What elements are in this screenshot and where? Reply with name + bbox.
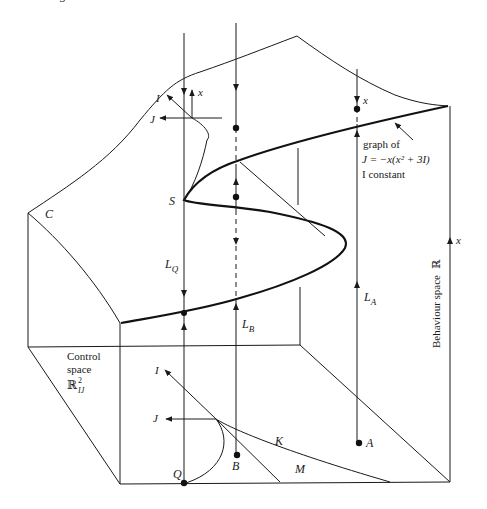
svg-text:J = −x(x² + 3I): J = −x(x² + 3I) bbox=[362, 153, 430, 166]
control-cusp bbox=[165, 370, 390, 483]
label-A-line-x: x bbox=[362, 94, 368, 106]
line-L-Q bbox=[181, 33, 187, 486]
top-fragment-text: 3 bbox=[59, 0, 66, 4]
line-L-B bbox=[233, 23, 240, 458]
control-space-label: Control space ℝ 2 IJ bbox=[67, 350, 101, 395]
label-control-J: J bbox=[153, 412, 159, 424]
svg-text:graph of: graph of bbox=[363, 138, 400, 150]
label-L-A: LA bbox=[363, 290, 377, 307]
box-frame bbox=[28, 148, 450, 484]
svg-text:space: space bbox=[67, 363, 92, 375]
label-behaviour-x: x bbox=[455, 234, 461, 246]
graph-annotation: graph of J = −x(x² + 3I) I constant bbox=[362, 123, 430, 180]
label-inset-x: x bbox=[197, 86, 203, 98]
label-A: A bbox=[365, 436, 374, 450]
svg-text:ℝ: ℝ bbox=[67, 378, 78, 392]
surface-outline bbox=[28, 36, 450, 482]
label-K: K bbox=[274, 434, 284, 448]
svg-text:IJ: IJ bbox=[77, 386, 85, 395]
label-L-B: LB bbox=[241, 317, 255, 334]
svg-text:2: 2 bbox=[78, 376, 82, 385]
label-control-I: I bbox=[154, 364, 160, 376]
label-inset-J: J bbox=[150, 113, 156, 125]
label-M: M bbox=[294, 462, 306, 476]
inset-axes-upper bbox=[160, 90, 222, 200]
svg-text:I constant: I constant bbox=[362, 168, 405, 180]
label-C: C bbox=[45, 207, 54, 221]
label-S: S bbox=[169, 194, 175, 208]
label-B: B bbox=[232, 459, 240, 473]
label-Q: Q bbox=[173, 467, 182, 481]
label-inset-I: I bbox=[155, 92, 161, 104]
svg-text:Behaviour spaceℝ: Behaviour spaceℝ bbox=[430, 259, 442, 348]
label-L-Q: LQ bbox=[164, 257, 179, 274]
behaviour-space-label: Behaviour spaceℝ bbox=[430, 259, 442, 348]
cusp-catastrophe-diagram: 3 bbox=[0, 0, 487, 509]
svg-text:Control: Control bbox=[67, 350, 101, 362]
